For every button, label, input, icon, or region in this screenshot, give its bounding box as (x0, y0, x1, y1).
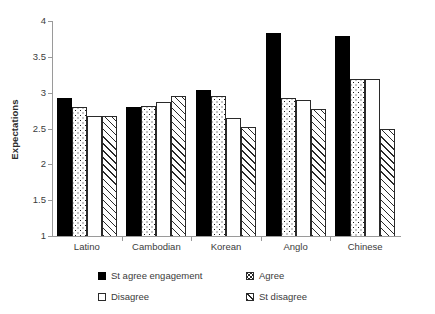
x-axis-group-separator (330, 236, 331, 241)
bar-group-bars (52, 21, 122, 236)
bar-group (330, 21, 400, 236)
x-tick-label: Latino (52, 241, 122, 252)
bar (126, 107, 141, 236)
chart-legend: St agree engagementAgreeDisagreeSt disag… (98, 265, 348, 307)
legend-item: St disagree (246, 291, 348, 302)
bar (72, 107, 87, 236)
y-tick-label: 4 (6, 16, 52, 26)
bar-group-bars (261, 21, 331, 236)
dotted-swatch (246, 272, 254, 280)
bar (196, 90, 211, 236)
bar (87, 116, 102, 236)
bar-group (122, 21, 192, 236)
bar (350, 79, 365, 236)
y-tick-mark (48, 236, 52, 237)
legend-item-label: St disagree (259, 291, 307, 302)
x-tick-label: Cambodian (122, 241, 192, 252)
bar (311, 109, 326, 236)
white-swatch (98, 293, 106, 301)
y-tick-label: 3.5 (6, 52, 52, 62)
legend-item-label: Disagree (111, 291, 149, 302)
bar (281, 98, 296, 236)
x-axis-group-separator (122, 236, 123, 241)
y-tick-label: 1 (6, 231, 52, 241)
plot-area: 43.532.521.51 (52, 21, 400, 236)
solid-black-swatch (98, 272, 106, 280)
bar-group (52, 21, 122, 236)
bar (266, 33, 281, 236)
legend-item: Agree (246, 270, 348, 281)
bar (57, 98, 72, 236)
y-tick-label: 3 (6, 88, 52, 98)
legend-item: St agree engagement (98, 270, 246, 281)
bar (211, 96, 226, 236)
bar-chart-figure: Expectations 43.532.521.51 LatinoCambodi… (0, 0, 435, 314)
y-tick-label: 2 (6, 160, 52, 170)
legend-item-label: St agree engagement (111, 270, 202, 281)
x-axis-line (52, 236, 401, 237)
bar (296, 100, 311, 236)
bar (171, 96, 186, 236)
bar (241, 127, 256, 236)
bar (335, 36, 350, 236)
legend-item: Disagree (98, 291, 246, 302)
y-tick-label: 1.5 (6, 195, 52, 205)
legend-item-label: Agree (259, 270, 284, 281)
bar (156, 102, 171, 236)
y-tick-label: 2.5 (6, 124, 52, 134)
bar (141, 106, 156, 236)
x-tick-label: Anglo (261, 241, 331, 252)
bar-group-bars (330, 21, 400, 236)
bar-group (261, 21, 331, 236)
bar-group (191, 21, 261, 236)
x-axis-group-separator (261, 236, 262, 241)
bar (102, 116, 117, 236)
x-axis-group-separator (191, 236, 192, 241)
bar (226, 118, 241, 236)
bar (380, 129, 395, 237)
x-tick-label: Chinese (330, 241, 400, 252)
x-tick-label: Korean (191, 241, 261, 252)
bar (365, 79, 380, 236)
bar-group-bars (122, 21, 192, 236)
bar-group-bars (191, 21, 261, 236)
hatched-swatch (246, 293, 254, 301)
